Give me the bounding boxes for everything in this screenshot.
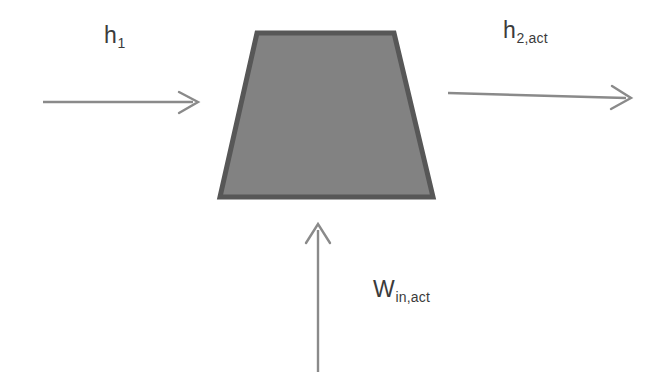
outlet-flow-arrow bbox=[448, 86, 631, 109]
diagram-canvas: h1 h2,act Win,act bbox=[0, 0, 657, 378]
work-input-arrow bbox=[306, 224, 330, 372]
label-work-input-base: W bbox=[373, 276, 395, 302]
compressor-diagram bbox=[0, 0, 657, 378]
inlet-flow-arrow bbox=[43, 92, 198, 113]
label-inlet-enthalpy-subscript: 1 bbox=[118, 35, 126, 51]
label-outlet-enthalpy: h2,act bbox=[503, 19, 547, 42]
label-work-input-subscript: in,act bbox=[395, 289, 430, 305]
label-outlet-enthalpy-base: h bbox=[503, 17, 516, 43]
label-work-input: Win,act bbox=[373, 278, 430, 301]
label-inlet-enthalpy-base: h bbox=[104, 22, 117, 48]
label-inlet-enthalpy: h1 bbox=[104, 24, 125, 47]
compressor-body-trapezoid bbox=[220, 33, 433, 197]
label-outlet-enthalpy-subscript: 2,act bbox=[517, 30, 548, 46]
